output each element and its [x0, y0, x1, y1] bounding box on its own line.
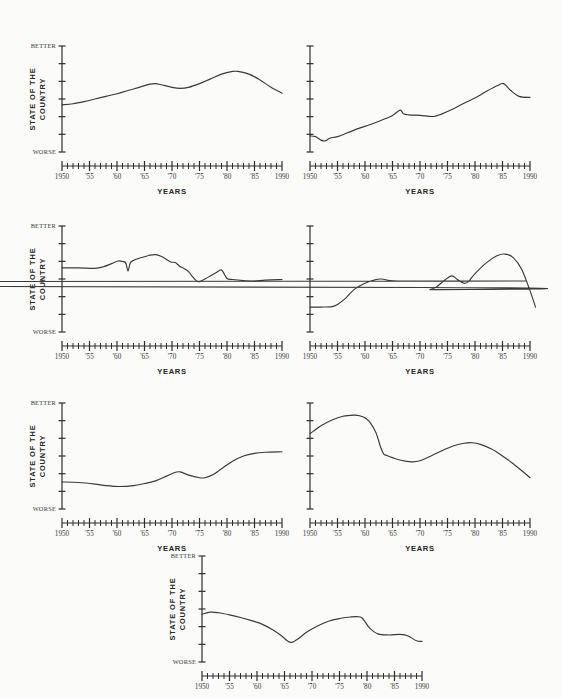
x-axis-tick-label: '70: [168, 353, 177, 361]
x-axis-tick-label: '80: [223, 353, 232, 361]
x-axis-tick-label: '80: [223, 173, 232, 181]
data-series-line: [62, 255, 282, 282]
x-axis-tick-label: '80: [471, 353, 480, 361]
line-chart-svg: 1950'55'60'65'70'75'80'851990YEARS: [280, 14, 562, 199]
x-axis-tick-label: 1990: [415, 683, 430, 691]
data-series-line: [202, 612, 422, 642]
x-axis: [62, 341, 282, 351]
chart-bottom-center: BETTERWORSESTATE OF THECOUNTRY1950'55'60…: [140, 534, 430, 698]
x-axis-tick-label: 1950: [195, 683, 210, 691]
y-axis-title-line-1: STATE OF THE: [168, 577, 177, 640]
y-axis-title-line-1: STATE OF THE: [28, 424, 37, 487]
y-axis-top-label: BETTER: [171, 552, 197, 559]
y-axis-top-label: BETTER: [31, 222, 57, 229]
y-axis-title-line-2: COUNTRY: [178, 588, 187, 631]
x-axis-tick-label: '55: [85, 353, 94, 361]
x-axis-tick-label: '80: [471, 173, 480, 181]
x-axis-tick-label: '60: [361, 173, 370, 181]
x-axis-tick-label: '85: [250, 173, 259, 181]
y-axis-bottom-label: WORSE: [173, 658, 196, 665]
x-axis-tick-label: 1990: [523, 530, 538, 538]
y-axis: [307, 403, 314, 509]
x-axis-tick-label: '80: [363, 683, 372, 691]
x-axis: [310, 341, 530, 351]
x-axis-tick-label: 1950: [55, 173, 70, 181]
x-axis-tick-label: '75: [443, 530, 452, 538]
chart-top-right: 1950'55'60'65'70'75'80'851990YEARS: [280, 14, 562, 199]
x-axis-tick-label: 1950: [55, 353, 70, 361]
x-axis-tick-label: '85: [250, 353, 259, 361]
x-axis: [310, 518, 530, 528]
x-axis-tick-label: '70: [168, 173, 177, 181]
x-axis-tick-label: '65: [388, 173, 397, 181]
x-axis: [62, 161, 282, 171]
x-axis-tick-label: 1950: [303, 173, 318, 181]
y-axis-title-line-1: STATE OF THE: [28, 67, 37, 130]
y-axis-title-line-1: STATE OF THE: [28, 247, 37, 310]
x-axis-tick-label: '85: [498, 530, 507, 538]
x-axis-tick-label: '60: [253, 683, 262, 691]
x-axis-tick-label: '65: [140, 353, 149, 361]
y-axis-bottom-label: WORSE: [33, 505, 56, 512]
data-series-line: [310, 83, 530, 141]
x-axis: [310, 161, 530, 171]
y-axis-top-label: BETTER: [31, 399, 57, 406]
x-axis-tick-label: '60: [361, 353, 370, 361]
x-axis-tick-label: '55: [85, 530, 94, 538]
x-axis-tick-label: '55: [333, 173, 342, 181]
x-axis-tick-label: '60: [113, 353, 122, 361]
data-series-line: [62, 71, 282, 105]
x-axis-tick-label: '70: [308, 683, 317, 691]
x-axis-tick-label: '85: [390, 683, 399, 691]
chart-top-left: BETTERWORSESTATE OF THECOUNTRY1950'55'60…: [0, 14, 290, 199]
x-axis-tick-label: '75: [335, 683, 344, 691]
y-axis: [59, 226, 66, 332]
chart-middle-right: 1950'55'60'65'70'75'80'851990YEARS: [280, 194, 562, 379]
y-axis: [59, 46, 66, 152]
x-axis-tick-label: '65: [140, 173, 149, 181]
chart-bottom-right: 1950'55'60'65'70'75'80'851990YEARS: [280, 371, 562, 553]
line-chart-svg: BETTERWORSESTATE OF THECOUNTRY1950'55'60…: [140, 534, 430, 698]
x-axis-tick-label: '75: [443, 173, 452, 181]
x-axis-tick-label: 1990: [523, 353, 538, 361]
x-axis-tick-label: 1950: [55, 530, 70, 538]
chart-grid: BETTERWORSESTATE OF THECOUNTRY1950'55'60…: [0, 0, 562, 698]
x-axis: [62, 518, 282, 528]
x-axis-tick-label: '55: [225, 683, 234, 691]
y-axis-title-line-2: COUNTRY: [38, 258, 47, 301]
y-axis-bottom-label: WORSE: [33, 148, 56, 155]
x-axis-tick-label: '85: [498, 173, 507, 181]
x-axis-tick-label: '80: [471, 530, 480, 538]
x-axis-tick-label: '60: [113, 530, 122, 538]
line-chart-svg: BETTERWORSESTATE OF THECOUNTRY1950'55'60…: [0, 371, 290, 553]
x-axis-tick-label: 1990: [523, 173, 538, 181]
x-axis-tick-label: '55: [85, 173, 94, 181]
x-axis-tick-label: '85: [498, 353, 507, 361]
chart-bottom-left: BETTERWORSESTATE OF THECOUNTRY1950'55'60…: [0, 371, 290, 553]
x-axis: [202, 671, 422, 681]
line-chart-svg: BETTERWORSESTATE OF THECOUNTRY1950'55'60…: [0, 14, 290, 199]
y-axis-title-line-2: COUNTRY: [38, 435, 47, 478]
line-chart-svg: 1950'55'60'65'70'75'80'851990YEARS: [280, 194, 562, 379]
x-axis-tick-label: '65: [280, 683, 289, 691]
data-series-line: [62, 452, 282, 487]
line-chart-svg: 1950'55'60'65'70'75'80'851990YEARS: [280, 371, 562, 553]
y-axis: [307, 226, 314, 332]
y-axis-title-line-2: COUNTRY: [38, 78, 47, 121]
y-axis: [199, 556, 206, 662]
y-axis-bottom-label: WORSE: [33, 328, 56, 335]
x-axis-tick-label: '70: [416, 353, 425, 361]
x-axis-tick-label: '65: [388, 353, 397, 361]
x-axis-tick-label: '75: [195, 353, 204, 361]
x-axis-tick-label: 1950: [303, 353, 318, 361]
data-series-line: [310, 415, 530, 478]
x-axis-tick-label: '60: [113, 173, 122, 181]
x-axis-tick-label: '70: [416, 173, 425, 181]
y-axis: [59, 403, 66, 509]
x-axis-tick-label: '55: [333, 353, 342, 361]
x-axis-tick-label: '75: [195, 173, 204, 181]
y-axis-top-label: BETTER: [31, 42, 57, 49]
x-axis-tick-label: '75: [443, 353, 452, 361]
